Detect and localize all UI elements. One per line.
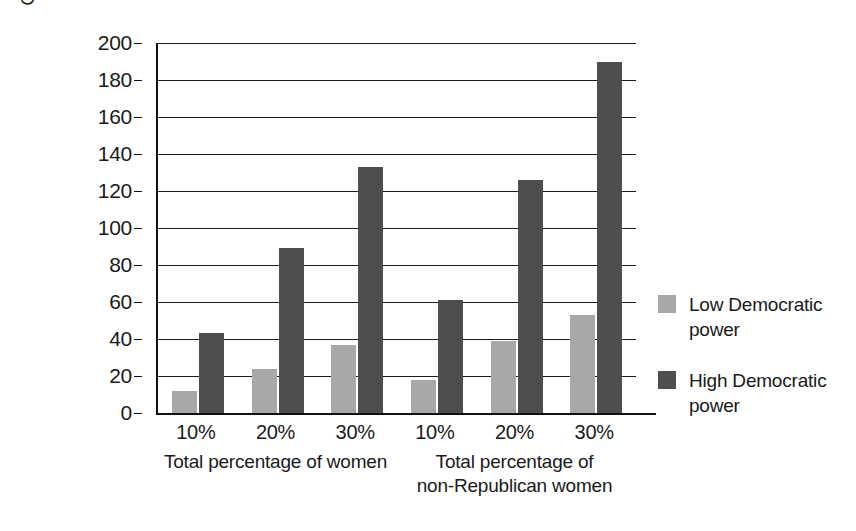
gridline <box>158 302 636 303</box>
gridline <box>158 154 636 155</box>
gridline <box>158 43 636 44</box>
y-axis-tick-mark <box>134 413 142 414</box>
y-axis-tick-mark <box>134 228 142 229</box>
y-axis-tick-mark <box>134 43 142 44</box>
y-axis-tick-mark <box>134 80 142 81</box>
x-axis-tick-label: 20% <box>241 420 311 444</box>
bar <box>570 315 595 413</box>
y-axis-tick-label: 0 <box>46 402 132 423</box>
x-axis-tick-label: 10% <box>161 420 231 444</box>
legend-label-low-line2: power <box>689 319 740 340</box>
bar <box>199 333 224 413</box>
y-axis-tick-mark <box>134 191 142 192</box>
gridline <box>158 339 636 340</box>
bar <box>172 391 197 413</box>
bar <box>252 369 277 413</box>
gridline <box>158 376 636 377</box>
bar <box>491 341 516 413</box>
y-axis-tick-mark <box>134 376 142 377</box>
y-axis-tick-labels: 200180160140120100806040200 <box>52 43 142 413</box>
bar <box>358 167 383 413</box>
y-axis-tick-label: 40 <box>46 328 132 349</box>
bar <box>597 62 622 414</box>
x-axis-tick-label: 20% <box>480 420 550 444</box>
y-axis-tick-label: 160 <box>46 106 132 127</box>
y-axis-tick-label: 200 <box>46 32 132 53</box>
gridline <box>158 228 636 229</box>
y-axis-tick-label: 20 <box>46 365 132 386</box>
legend-swatch-low-icon <box>658 295 676 313</box>
x-axis-group-label: Total percentage ofnon-Republican women <box>365 450 665 498</box>
y-axis-tick-label: 120 <box>46 180 132 201</box>
x-axis-tick-label: 10% <box>400 420 470 444</box>
legend-label-high-line2: power <box>689 395 740 416</box>
y-axis-tick-mark <box>134 154 142 155</box>
gridline <box>158 265 636 266</box>
x-axis-line <box>156 413 656 415</box>
plot-area <box>156 43 636 413</box>
x-axis-group-label-line1: Total percentage of <box>436 451 594 472</box>
gridline <box>158 117 636 118</box>
x-axis-group-label-line2: non-Republican women <box>417 475 613 496</box>
bar <box>411 380 436 413</box>
x-axis-tick-label: 30% <box>559 420 629 444</box>
bar-chart-figure: Control over start/quit times 2001801601… <box>0 0 856 531</box>
y-axis-tick-mark <box>134 265 142 266</box>
x-axis-group-label-line1: Total percentage of women <box>164 451 387 472</box>
gridline <box>158 191 636 192</box>
y-axis-tick-label: 60 <box>46 291 132 312</box>
legend-label-low: Low Democratic power <box>689 292 822 342</box>
legend-item-low: Low Democratic power <box>658 292 848 342</box>
y-axis-tick-mark <box>134 117 142 118</box>
y-axis-tick-mark <box>134 302 142 303</box>
x-axis-tick-label: 30% <box>320 420 390 444</box>
legend-item-high: High Democratic power <box>658 368 848 418</box>
y-axis-tick-label: 80 <box>46 254 132 275</box>
legend-swatch-high-icon <box>658 371 676 389</box>
y-axis-tick-mark <box>134 339 142 340</box>
bar <box>279 248 304 413</box>
gridline <box>158 80 636 81</box>
bar <box>331 345 356 413</box>
bar <box>438 300 463 413</box>
y-axis-tick-label: 100 <box>46 217 132 238</box>
legend-label-high-line1: High Democratic <box>689 370 826 391</box>
bar <box>518 180 543 413</box>
y-axis-tick-label: 180 <box>46 69 132 90</box>
chart-legend: Low Democratic power High Democratic pow… <box>658 292 848 444</box>
y-axis-tick-label: 140 <box>46 143 132 164</box>
legend-label-high: High Democratic power <box>689 368 826 418</box>
legend-label-low-line1: Low Democratic <box>689 294 822 315</box>
y-axis-title: Control over start/quit times <box>10 0 46 76</box>
